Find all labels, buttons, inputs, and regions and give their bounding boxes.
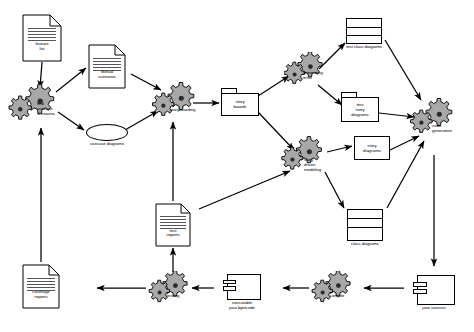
node-label: storyboards — [234, 99, 247, 109]
node-usecase-diagrams[interactable]: usecase diagrams — [86, 124, 128, 141]
node-find-usecase-scenarios[interactable]: findusecasescenarios — [6, 83, 62, 125]
component-ear — [413, 289, 427, 294]
node-label: featurelist — [22, 42, 62, 52]
node-label: storyboarding — [170, 108, 212, 113]
doc-lines — [28, 28, 57, 40]
node-label: java sources — [399, 306, 470, 311]
node-label: codegeneration — [432, 124, 460, 134]
edge-test-reports-to-sdm — [199, 171, 290, 209]
node-story-diagrams[interactable]: storydiagrams — [354, 136, 390, 160]
node-textual-scenarios[interactable]: textualscenarios — [88, 44, 126, 89]
package-body: storyboards — [221, 93, 259, 116]
node-label: storydrivenmodeling — [304, 158, 334, 172]
node-label: textualscenarios — [88, 70, 126, 80]
doc-lines — [27, 278, 54, 290]
node-label: coveragereports — [22, 290, 60, 300]
ellipse-shape — [86, 124, 128, 141]
component-ear — [413, 282, 427, 287]
node-coverage-reports[interactable]: coveragereports — [22, 264, 60, 309]
node-label: findusecasescenarios — [37, 102, 71, 116]
node-label: usecase diagrams — [78, 142, 137, 147]
node-generating-tests[interactable]: generatingtests — [284, 52, 326, 88]
node-testing[interactable]: testing — [148, 271, 192, 305]
class-box: storydiagrams — [354, 136, 390, 160]
node-java-sources[interactable]: java sources — [413, 275, 455, 305]
edge-test-story-to-code-gen — [379, 113, 414, 117]
node-label: testreports — [155, 229, 191, 239]
node-test-reports[interactable]: testreports — [155, 203, 191, 247]
node-storyboarding[interactable]: storyboarding — [152, 82, 200, 122]
node-code-generation[interactable]: codegeneration — [410, 98, 458, 140]
package-body: teststorydiagrams — [341, 97, 379, 122]
edge-sdm-to-story-diagrams — [327, 146, 352, 152]
node-label: generatingtests — [303, 71, 335, 81]
node-label: testing — [167, 294, 195, 299]
doc-lines — [160, 216, 186, 227]
class-box — [347, 209, 383, 241]
edge-sdm-to-class-diagrams — [325, 172, 344, 208]
node-label: test class diagrams — [337, 45, 392, 50]
gear-pair-icon — [311, 271, 355, 305]
node-executable-java-bytecode[interactable]: executablejava bytecode — [223, 274, 261, 300]
node-feature-list[interactable]: featurelist — [22, 14, 62, 62]
gear-pair-icon — [410, 98, 458, 140]
node-test-class-diagrams[interactable]: test class diagrams — [346, 18, 382, 44]
node-label: storydiagrams — [363, 143, 381, 153]
node-story-driven-modeling[interactable]: storydrivenmodeling — [281, 136, 327, 176]
component-ear — [223, 280, 236, 284]
class-box — [346, 18, 382, 44]
node-compile[interactable]: compile — [311, 271, 355, 305]
component-ear — [223, 286, 236, 290]
node-label: teststorydiagrams — [351, 102, 368, 118]
doc-lines — [93, 58, 120, 70]
node-test-story-diagrams[interactable]: teststorydiagrams — [341, 92, 379, 122]
diagram-canvas: featurelist findusecasescenarios textual… — [0, 0, 474, 332]
gear-pair-icon — [152, 82, 200, 122]
node-class-diagrams[interactable]: class diagrams — [347, 209, 383, 241]
node-label: class diagrams — [338, 242, 393, 247]
edge-class-diagrams-to-code-gen — [387, 141, 424, 208]
node-story-boards[interactable]: storyboards — [221, 88, 259, 116]
node-label: executablejava bytecode — [210, 301, 274, 311]
gear-pair-icon — [148, 271, 192, 305]
node-label: compile — [330, 294, 358, 299]
